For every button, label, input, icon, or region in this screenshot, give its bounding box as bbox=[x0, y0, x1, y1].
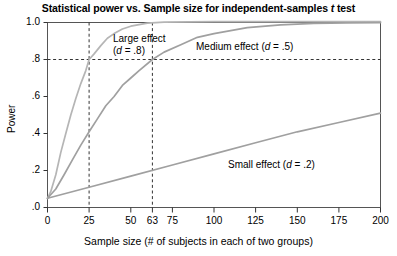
power-curve-figure: Statistical power vs. Sample size for in… bbox=[0, 0, 397, 256]
medium-effect-label: Medium effect (d = .5) bbox=[196, 41, 293, 53]
y-axis-ticks bbox=[44, 23, 48, 208]
x-tick-label-0: 0 bbox=[34, 215, 62, 226]
large-effect-label: Large effect (d = .8) bbox=[113, 33, 166, 57]
y-tick-label-0-8: .8 bbox=[8, 53, 40, 64]
x-tick-label-175: 175 bbox=[325, 215, 353, 226]
d-symbol-small: d bbox=[286, 159, 292, 170]
y-tick-label-0-0: .0 bbox=[8, 201, 40, 212]
d-symbol-medium: d bbox=[265, 41, 271, 52]
x-tick-label-200: 200 bbox=[367, 215, 395, 226]
x-axis-title: Sample size (# of subjects in each of tw… bbox=[0, 235, 397, 247]
x-tick-label-100: 100 bbox=[200, 215, 228, 226]
y-axis-title: Power bbox=[6, 105, 17, 133]
large-effect-label-line2: (d = .8) bbox=[113, 45, 166, 57]
x-tick-label-75: 75 bbox=[158, 215, 186, 226]
medium-effect-label-line1: Medium effect (d = .5) bbox=[196, 41, 293, 53]
small-effect-label: Small effect (d = .2) bbox=[228, 159, 315, 171]
d-symbol-large: d bbox=[116, 45, 122, 56]
x-tick-label-25: 25 bbox=[75, 215, 103, 226]
y-tick-label-0-2: .2 bbox=[8, 164, 40, 175]
x-axis-ticks bbox=[48, 208, 381, 213]
y-tick-label-1-0: 1.0 bbox=[8, 16, 40, 27]
y-tick-label-0-6: .6 bbox=[8, 90, 40, 101]
small-effect-label-line1: Small effect (d = .2) bbox=[228, 159, 315, 171]
large-effect-label-line1: Large effect bbox=[113, 33, 166, 45]
x-tick-label-150: 150 bbox=[283, 215, 311, 226]
x-tick-label-125: 125 bbox=[242, 215, 270, 226]
